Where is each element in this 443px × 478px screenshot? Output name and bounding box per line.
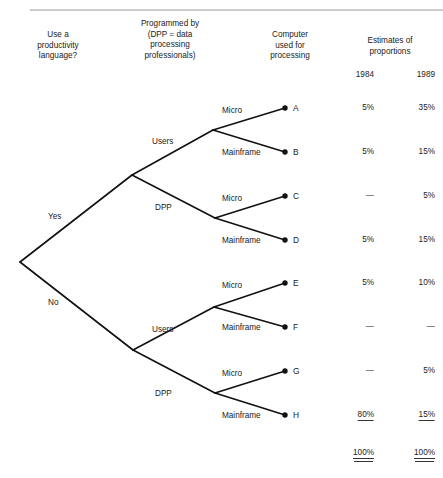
terminal-label-A: A [293,103,299,113]
value-1989-H: 15% [419,410,435,421]
branch-edge-no [20,262,133,350]
col-estimates-line: proportions [367,47,412,58]
total-1984: 100% [353,448,374,459]
edge-label-no-users: Users [152,325,173,334]
value-1989-C: 5% [423,191,435,200]
terminal-dot-C [282,193,287,198]
col-computer-used-line: processing [270,51,310,62]
edge-label-no-dpp: DPP [155,389,172,398]
col-computer-used-line: used for [270,41,310,52]
col-programmed-by-line: Programmed by [141,19,199,30]
value-1989-G: 5% [423,366,435,375]
edge-label-g: Micro [222,369,242,378]
col-programmed-by-line: (DPP = data [141,30,199,41]
terminal-dot-D [282,237,287,242]
col-question: Use aproductivitylanguage? [37,30,78,62]
value-1984-C: — [366,191,374,200]
terminal-label-F: F [293,322,298,332]
edge-label-f: Mainframe [222,323,261,332]
col-question-line: Use a [37,30,78,41]
col-programmed-by-line: processing [141,40,199,51]
terminal-label-G: G [293,366,300,376]
value-1989-B: 15% [419,147,435,156]
edge-label-e: Micro [222,281,242,290]
edge-label-yes-users: Users [152,137,173,146]
col-question-line: productivity [37,41,78,52]
terminal-dot-B [282,149,287,154]
value-1984-H: 80% [358,410,374,421]
terminal-dot-E [282,280,287,285]
decision-tree-diagram: Use aproductivitylanguage?Programmed by(… [0,0,443,478]
year-1989: 1989 [417,70,435,79]
col-programmed-by: Programmed by(DPP = dataprocessingprofes… [141,19,199,61]
subbranch-edge-yes-dpp [132,175,215,218]
terminal-label-H: H [293,410,299,420]
value-1989-E: 10% [419,278,435,287]
value-1989-F: — [427,322,435,331]
value-1984-D: 5% [362,235,374,244]
edge-label-yes-dpp: DPP [155,203,172,212]
year-1984: 1984 [356,70,374,79]
terminal-label-E: E [293,278,299,288]
terminal-label-D: D [293,235,299,245]
terminal-label-B: B [293,147,299,157]
col-question-line: language? [37,51,78,62]
edge-label-yes: Yes [48,212,61,221]
terminal-dot-A [282,105,287,110]
terminal-label-C: C [293,191,299,201]
total-1989: 100% [414,448,435,459]
value-1989-A: 35% [419,103,435,112]
subbranch-edge-no-dpp [133,350,215,393]
value-1984-B: 5% [362,147,374,156]
col-estimates: Estimates ofproportions [367,36,412,57]
col-estimates-line: Estimates of [367,36,412,47]
value-1989-D: 15% [419,235,435,244]
edge-label-a: Micro [222,106,242,115]
terminal-dot-F [282,324,287,329]
terminal-dot-G [282,368,287,373]
subbranch-edge-no-users [133,307,214,350]
col-programmed-by-line: professionals) [141,51,199,62]
value-1984-A: 5% [362,103,374,112]
edge-label-c: Micro [222,194,242,203]
col-computer-used: Computerused forprocessing [270,30,310,62]
value-1984-E: 5% [362,278,374,287]
terminal-dot-H [282,412,287,417]
value-1984-G: — [366,366,374,375]
value-1984-F: — [366,322,374,331]
branch-edge-yes [20,175,132,262]
col-computer-used-line: Computer [270,30,310,41]
edge-label-d: Mainframe [222,236,261,245]
edge-label-h: Mainframe [222,411,261,420]
edge-label-no: No [48,298,58,307]
edge-label-b: Mainframe [222,148,261,157]
